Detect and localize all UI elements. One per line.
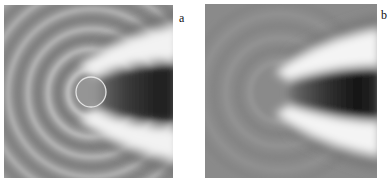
panel-label-a: a (179, 12, 184, 24)
panel-label-b: b (381, 9, 387, 21)
wave-field-b (205, 4, 377, 178)
panel-a-wave-field-with-scatterer (4, 5, 173, 178)
wave-field-a (4, 5, 173, 178)
panel-b-wave-field (205, 4, 377, 178)
